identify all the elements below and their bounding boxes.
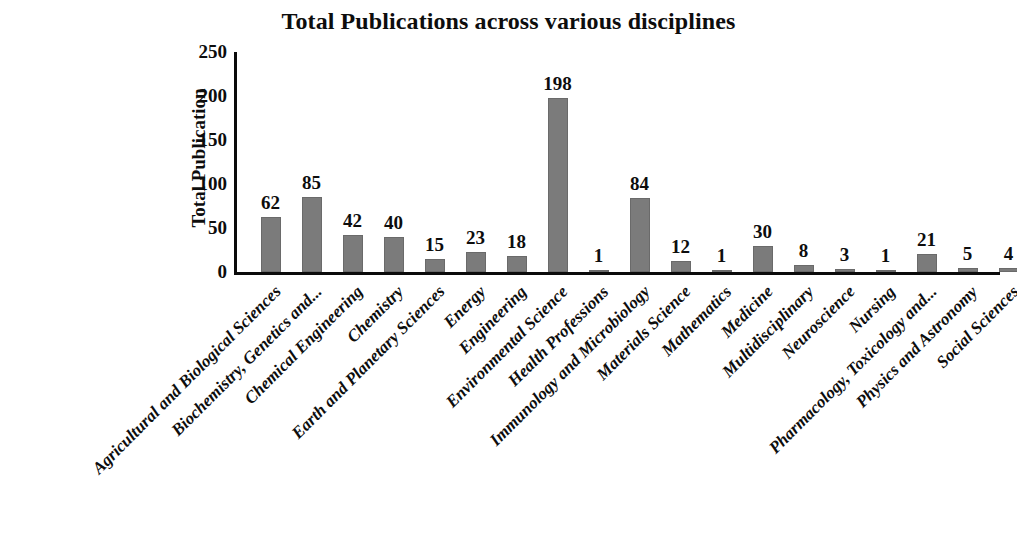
bar-value-label: 198: [537, 73, 578, 95]
bar-value-label: 40: [373, 212, 414, 234]
bar-slot: 62: [250, 52, 291, 272]
bar[interactable]: [876, 270, 896, 272]
bar-value-label: 30: [742, 221, 783, 243]
bar-value-label: 21: [906, 229, 947, 251]
bar-value-label: 84: [619, 173, 660, 195]
bar-slot: 84: [619, 52, 660, 272]
bar[interactable]: [917, 254, 937, 272]
bar-value-label: 15: [414, 234, 455, 256]
bar-slot: 40: [373, 52, 414, 272]
y-tick-label: 0: [218, 261, 228, 283]
bar-value-label: 1: [578, 245, 619, 267]
bar-value-label: 23: [455, 227, 496, 249]
bar[interactable]: [712, 270, 732, 272]
bar[interactable]: [507, 256, 527, 272]
bar[interactable]: [671, 261, 691, 272]
y-tick-label: 50: [208, 217, 227, 239]
bar[interactable]: [589, 270, 609, 272]
x-axis-line: [234, 272, 1000, 275]
bar-slot: 23: [455, 52, 496, 272]
bar[interactable]: [835, 269, 855, 272]
bar[interactable]: [999, 268, 1017, 272]
bar-slot: 1: [865, 52, 906, 272]
bar-slot: 15: [414, 52, 455, 272]
bar-value-label: 42: [332, 210, 373, 232]
bar[interactable]: [425, 259, 445, 272]
chart-title: Total Publications across various discip…: [0, 8, 1017, 35]
bar-value-label: 12: [660, 236, 701, 258]
bar[interactable]: [343, 235, 363, 272]
bar[interactable]: [753, 246, 773, 272]
bar-slot: 42: [332, 52, 373, 272]
bar-slot: 12: [660, 52, 701, 272]
y-tick-label: 150: [199, 129, 228, 151]
bar-slot: 1: [701, 52, 742, 272]
bar-slot: 18: [496, 52, 537, 272]
bar-value-label: 1: [701, 245, 742, 267]
bar-slot: 8: [783, 52, 824, 272]
bar-slot: 4: [988, 52, 1017, 272]
y-tick-label: 200: [199, 85, 228, 107]
bar[interactable]: [548, 98, 568, 272]
bar-value-label: 3: [824, 244, 865, 266]
bar[interactable]: [466, 252, 486, 272]
bar-slot: 30: [742, 52, 783, 272]
bar[interactable]: [794, 265, 814, 272]
bar-slot: 198: [537, 52, 578, 272]
chart-figure: Total Publications across various discip…: [0, 0, 1017, 554]
bar[interactable]: [261, 217, 281, 272]
bar-slot: 1: [578, 52, 619, 272]
y-axis-line: [234, 52, 237, 274]
bar[interactable]: [630, 198, 650, 272]
bar-value-label: 1: [865, 245, 906, 267]
bar-slot: 21: [906, 52, 947, 272]
bar-slot: 3: [824, 52, 865, 272]
bar-value-label: 5: [947, 243, 988, 265]
bar[interactable]: [958, 268, 978, 272]
bar-value-label: 18: [496, 231, 537, 253]
bar-value-label: 4: [988, 243, 1017, 265]
bar-value-label: 62: [250, 192, 291, 214]
y-tick-label: 250: [199, 41, 228, 63]
bar-slot: 5: [947, 52, 988, 272]
bar-value-label: 8: [783, 240, 824, 262]
bar[interactable]: [302, 197, 322, 272]
bar[interactable]: [384, 237, 404, 272]
bar-slot: 85: [291, 52, 332, 272]
bar-value-label: 85: [291, 172, 332, 194]
y-tick-label: 100: [199, 173, 228, 195]
plot-area: 050100150200250 628542401523181981841213…: [236, 52, 1000, 272]
